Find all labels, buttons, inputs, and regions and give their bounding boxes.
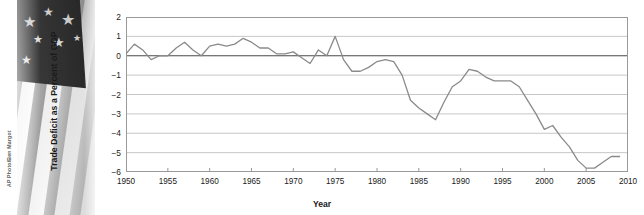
x-tick-label: 1965	[242, 177, 260, 186]
chart-svg	[126, 17, 628, 172]
x-tick-label: 1985	[410, 177, 428, 186]
y-tick-label: 0	[116, 51, 121, 61]
y-axis-title: Trade Deficit as a Percent of GDP	[49, 26, 59, 176]
x-tick-label: 1990	[452, 177, 470, 186]
x-tick-label: 1995	[493, 177, 511, 186]
x-tick-label: 2005	[577, 177, 595, 186]
x-tick-label: 1975	[326, 177, 344, 186]
y-tick-label: −1	[111, 70, 121, 80]
y-tick-label: −4	[111, 128, 121, 138]
photo-credit: AP Photo/Ben Margot	[6, 17, 12, 187]
x-axis-ticks: 1950195519601965197019751980198519901995…	[126, 177, 628, 191]
x-axis-title: Year	[0, 199, 644, 209]
plot-area	[126, 17, 628, 172]
y-tick-label: 2	[116, 12, 121, 22]
trade-deficit-figure: AP Photo/Ben Margot ★ ★ ★ ★ ★ ★ ★ Trade …	[0, 0, 644, 215]
photo-credit-wrap: AP Photo/Ben Margot	[0, 0, 16, 215]
flag-photo-block: AP Photo/Ben Margot ★ ★ ★ ★ ★ ★ ★	[0, 0, 95, 215]
gridlines	[126, 17, 628, 172]
x-tick-label: 1955	[159, 177, 177, 186]
y-tick-label: 1	[116, 31, 121, 41]
x-tick-label: 1970	[284, 177, 302, 186]
x-tick-label: 1980	[368, 177, 386, 186]
y-axis-ticks: 210−1−2−3−4−5−6	[96, 17, 121, 172]
y-tick-label: −2	[111, 90, 121, 100]
x-tick-label: 1950	[117, 177, 135, 186]
y-tick-label: −6	[111, 167, 121, 177]
y-tick-label: −3	[111, 109, 121, 119]
x-tick-label: 1960	[201, 177, 219, 186]
x-tick-label: 2000	[535, 177, 553, 186]
x-tick-label: 2010	[619, 177, 637, 186]
y-tick-label: −5	[111, 148, 121, 158]
